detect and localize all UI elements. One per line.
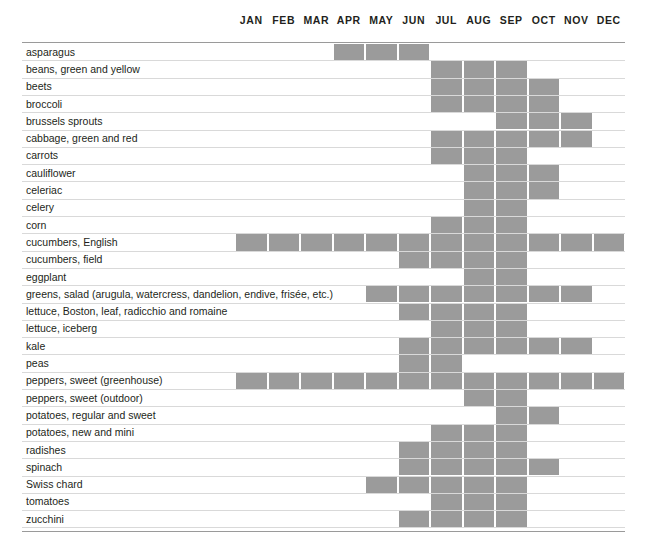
row-separator bbox=[22, 199, 625, 200]
availability-cell bbox=[398, 477, 431, 493]
availability-cell bbox=[463, 165, 496, 181]
availability-cell bbox=[430, 304, 463, 320]
availability-cell bbox=[463, 286, 496, 302]
availability-cell bbox=[593, 373, 626, 389]
row-separator bbox=[22, 268, 625, 269]
availability-cell bbox=[398, 338, 431, 354]
produce-row-label: lettuce, Boston, leaf, radicchio and rom… bbox=[26, 306, 227, 317]
availability-cell bbox=[463, 321, 496, 337]
availability-cell bbox=[463, 304, 496, 320]
availability-cell bbox=[528, 96, 561, 112]
availability-cell bbox=[398, 44, 431, 60]
availability-cell bbox=[560, 373, 593, 389]
availability-cell bbox=[430, 477, 463, 493]
produce-row-label: asparagus bbox=[26, 47, 75, 58]
availability-cell bbox=[300, 234, 333, 250]
row-separator bbox=[22, 424, 625, 425]
availability-cell bbox=[398, 234, 431, 250]
row-separator bbox=[22, 60, 625, 61]
availability-cell bbox=[365, 477, 398, 493]
availability-cell bbox=[398, 286, 431, 302]
availability-cell bbox=[463, 442, 496, 458]
availability-cell bbox=[463, 390, 496, 406]
availability-cell bbox=[430, 96, 463, 112]
row-separator bbox=[22, 493, 625, 494]
availability-cell bbox=[495, 494, 528, 510]
row-separator bbox=[22, 354, 625, 355]
availability-cell bbox=[495, 252, 528, 268]
availability-cell bbox=[430, 338, 463, 354]
availability-cell bbox=[398, 373, 431, 389]
availability-cell bbox=[495, 442, 528, 458]
produce-row-label: celeriac bbox=[26, 185, 62, 196]
availability-cell bbox=[495, 321, 528, 337]
produce-row-label: tomatoes bbox=[26, 496, 69, 507]
produce-row-label: cucumbers, field bbox=[26, 254, 102, 265]
availability-cell bbox=[495, 79, 528, 95]
availability-cell bbox=[528, 234, 561, 250]
availability-cell bbox=[430, 286, 463, 302]
availability-cell bbox=[463, 338, 496, 354]
availability-cell bbox=[365, 234, 398, 250]
availability-cell bbox=[463, 234, 496, 250]
availability-cell bbox=[495, 286, 528, 302]
availability-cell bbox=[560, 286, 593, 302]
availability-cell bbox=[430, 148, 463, 164]
availability-cell bbox=[365, 44, 398, 60]
availability-cell bbox=[235, 373, 268, 389]
availability-grid: asparagusbeans, green and yellowbeetsbro… bbox=[0, 0, 647, 547]
availability-cell bbox=[463, 217, 496, 233]
availability-cell bbox=[430, 373, 463, 389]
availability-cell bbox=[528, 459, 561, 475]
availability-cell bbox=[463, 252, 496, 268]
availability-cell bbox=[365, 286, 398, 302]
availability-cell bbox=[560, 113, 593, 129]
availability-cell bbox=[495, 165, 528, 181]
availability-cell bbox=[495, 390, 528, 406]
availability-cell bbox=[430, 79, 463, 95]
grid-bottom-rule bbox=[22, 531, 625, 532]
row-separator bbox=[22, 147, 625, 148]
availability-cell bbox=[235, 234, 268, 250]
availability-cell bbox=[333, 44, 366, 60]
availability-cell bbox=[430, 494, 463, 510]
availability-cell bbox=[300, 373, 333, 389]
row-separator bbox=[22, 527, 625, 528]
availability-cell bbox=[430, 252, 463, 268]
availability-cell bbox=[463, 61, 496, 77]
produce-row-label: greens, salad (arugula, watercress, dand… bbox=[26, 289, 333, 300]
availability-cell bbox=[495, 477, 528, 493]
availability-cell bbox=[495, 407, 528, 423]
availability-cell bbox=[495, 61, 528, 77]
produce-row-label: zucchini bbox=[26, 514, 64, 525]
availability-cell bbox=[398, 459, 431, 475]
produce-row-label: radishes bbox=[26, 445, 66, 456]
availability-cell bbox=[495, 234, 528, 250]
availability-cell bbox=[495, 338, 528, 354]
row-separator bbox=[22, 476, 625, 477]
produce-row-label: peppers, sweet (greenhouse) bbox=[26, 375, 163, 386]
availability-cell bbox=[495, 182, 528, 198]
produce-row-label: kale bbox=[26, 341, 45, 352]
row-separator bbox=[22, 320, 625, 321]
produce-row-label: broccoli bbox=[26, 99, 62, 110]
availability-cell bbox=[463, 269, 496, 285]
availability-cell bbox=[528, 113, 561, 129]
availability-cell bbox=[430, 355, 463, 371]
availability-cell bbox=[495, 131, 528, 147]
availability-cell bbox=[398, 442, 431, 458]
produce-row-label: carrots bbox=[26, 150, 58, 161]
availability-cell bbox=[333, 234, 366, 250]
availability-cell bbox=[430, 217, 463, 233]
row-separator bbox=[22, 441, 625, 442]
availability-cell bbox=[495, 269, 528, 285]
availability-cell bbox=[398, 511, 431, 527]
produce-row-label: corn bbox=[26, 220, 46, 231]
availability-cell bbox=[495, 148, 528, 164]
availability-cell bbox=[430, 459, 463, 475]
availability-cell bbox=[463, 200, 496, 216]
produce-row-label: cabbage, green and red bbox=[26, 133, 138, 144]
availability-cell bbox=[528, 373, 561, 389]
availability-cell bbox=[463, 373, 496, 389]
availability-cell bbox=[560, 131, 593, 147]
